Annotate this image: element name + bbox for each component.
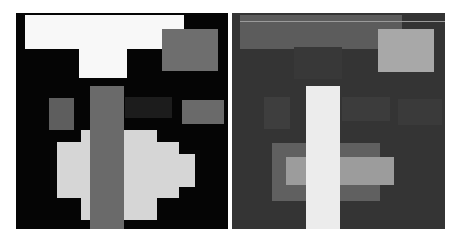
right-top-right-rect — [378, 29, 434, 72]
right-faint-center-rect — [342, 97, 390, 121]
left-blob-row-3 — [57, 154, 195, 187]
right-top-bar-highlight — [240, 21, 445, 22]
right-right-rect — [398, 99, 442, 125]
left-panel — [16, 13, 228, 229]
left-small-left-rect — [49, 98, 74, 130]
left-faint-center-rect — [125, 97, 172, 118]
left-t-stem — [79, 47, 127, 78]
left-top-bar — [25, 15, 184, 49]
right-panel — [232, 13, 445, 229]
left-right-rect — [182, 100, 224, 124]
right-cross-inner — [286, 157, 394, 185]
right-small-left-rect — [264, 97, 290, 129]
right-t-stem — [294, 47, 342, 79]
right-center-bar — [306, 86, 340, 229]
left-top-right-rect — [162, 29, 218, 71]
left-center-bar — [90, 86, 124, 229]
